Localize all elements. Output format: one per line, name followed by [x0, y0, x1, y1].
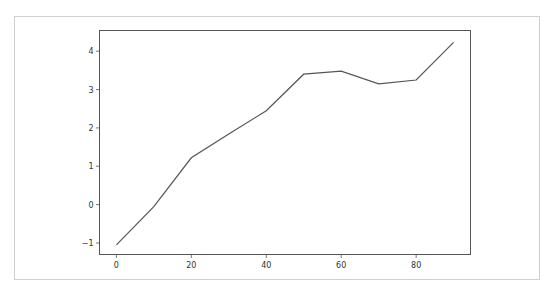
plot-area — [100, 31, 471, 255]
x-tick-label: 40 — [261, 261, 271, 270]
y-tick-label: 4 — [88, 47, 93, 56]
x-tick-label: 0 — [114, 261, 119, 270]
y-tick-label: 3 — [88, 86, 93, 95]
x-axis — [116, 255, 416, 259]
x-tick-label: 80 — [411, 261, 421, 270]
x-tick-label: 20 — [186, 261, 196, 270]
y-tick-label: 0 — [88, 201, 93, 210]
line-chart: −1 0 1 2 3 4 0 20 40 60 80 — [0, 0, 553, 292]
y-axis — [96, 51, 100, 243]
y-tick-label: −1 — [82, 239, 94, 248]
y-tick-label: 2 — [88, 124, 93, 133]
x-tick-label: 60 — [336, 261, 346, 270]
y-tick-label: 1 — [88, 162, 93, 171]
